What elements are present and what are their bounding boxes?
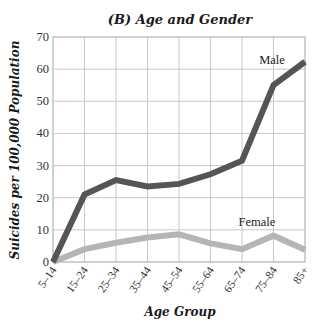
y-tick-label: 70 — [37, 30, 50, 44]
data-point-female — [273, 235, 274, 236]
series-label-male: Male — [259, 53, 285, 67]
x-axis-ticks: 5–1415–2425–3435–4445–5455–6465–7475–848… — [36, 264, 311, 295]
data-point-male — [116, 180, 117, 181]
data-point-male — [84, 194, 85, 195]
data-point-female — [210, 243, 211, 244]
data-point-female — [147, 237, 148, 238]
series-label-female: Female — [239, 215, 276, 229]
y-tick-label: 40 — [37, 126, 50, 140]
x-tick-label: 35–44 — [127, 264, 153, 295]
chart-title: (B) Age and Gender — [108, 12, 253, 27]
x-tick-label: 45–54 — [158, 264, 184, 295]
y-tick-label: 10 — [37, 223, 50, 237]
x-tick-label: 85+ — [290, 264, 310, 286]
data-point-male — [305, 61, 306, 62]
data-point-female — [179, 234, 180, 235]
data-point-female — [116, 242, 117, 243]
x-tick-label: 55–64 — [190, 264, 216, 295]
y-tick-label: 20 — [37, 191, 50, 205]
data-point-male — [53, 262, 54, 263]
data-point-female — [84, 249, 85, 250]
x-tick-label: 65–74 — [221, 264, 247, 295]
x-tick-label: 75–84 — [253, 264, 279, 295]
data-point-male — [242, 160, 243, 161]
y-axis-label: Suicides per 100,000 Population — [8, 41, 22, 260]
y-tick-label: 60 — [37, 62, 50, 76]
y-tick-label: 30 — [37, 159, 50, 173]
x-tick-label: 5–14 — [36, 264, 59, 290]
x-tick-label: 25–34 — [95, 264, 121, 295]
data-point-male — [273, 85, 274, 86]
data-point-male — [210, 174, 211, 175]
data-point-male — [179, 183, 180, 184]
data-point-female — [305, 249, 306, 250]
y-axis-ticks: 010203040506070 — [37, 30, 50, 269]
line-chart: (B) Age and Gender 010203040506070 5–141… — [0, 0, 326, 335]
y-tick-label: 50 — [37, 94, 50, 108]
x-axis-label: Age Group — [143, 305, 216, 319]
data-point-male — [147, 186, 148, 187]
x-tick-label: 15–24 — [64, 264, 90, 295]
data-point-female — [242, 249, 243, 250]
